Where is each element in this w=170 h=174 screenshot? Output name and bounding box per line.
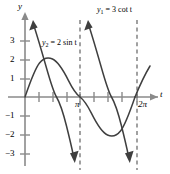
x-tick-label-pi: π (75, 100, 80, 109)
graph-figure: y t 3 2 1 −1 −2 −3 π 2π y1 = 3 cot t y2 … (0, 0, 170, 174)
cot-curve-label: y1 = 3 cot t (97, 6, 132, 15)
y-tick-label-1: 1 (10, 74, 15, 83)
sine-curve-label: y2 = 2 sin t (42, 39, 77, 48)
x-axis-arrowhead (150, 93, 158, 100)
x-tick-label-2pi: 2π (138, 100, 147, 109)
cot-curve-label-rest: = 3 cot t (104, 5, 133, 14)
axes-group (8, 14, 158, 166)
cot-branch-2-arrow-down (125, 151, 134, 163)
cot-branch-1-arrow-up (29, 20, 37, 30)
x-axis-label: t (160, 90, 163, 99)
y-axis-arrowhead (21, 12, 28, 20)
y-tick-label-neg1: −1 (5, 111, 15, 120)
y-tick-label-neg2: −2 (5, 130, 15, 139)
y-tick-label-neg3: −3 (5, 149, 15, 158)
cot-branch-1-arrow-down (70, 151, 79, 163)
y-axis-label: y (18, 2, 22, 11)
cot-branch-2 (89, 26, 129, 156)
graph-canvas (0, 0, 170, 174)
y-tick-label-2: 2 (10, 55, 15, 64)
sine-curve-label-rest: = 2 sin t (49, 38, 77, 47)
cot-branch-2-arrow-up (84, 20, 92, 30)
y-tick-label-3: 3 (10, 36, 15, 45)
